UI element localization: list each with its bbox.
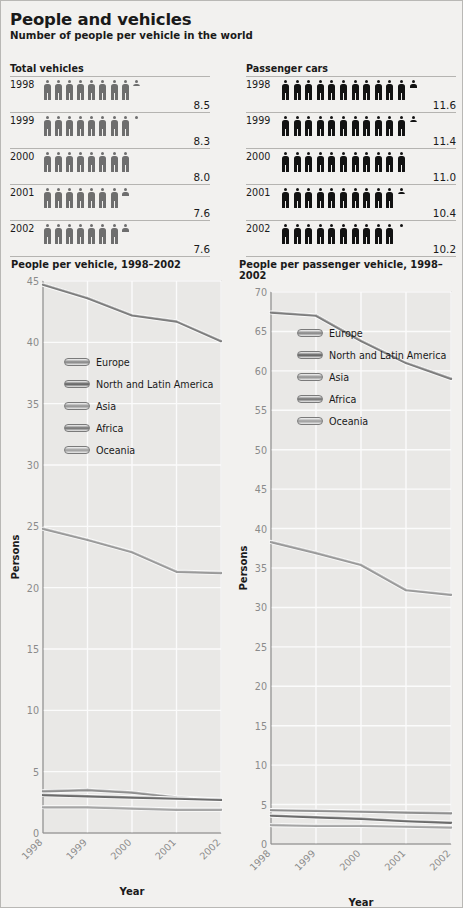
pictogram-row: 20027.6 <box>10 221 210 257</box>
chart-plot-area: 05101520253035404519981999200020012002Ye… <box>7 273 229 901</box>
pictogram-value: 8.5 <box>193 99 210 111</box>
x-axis-title: Year <box>119 886 145 897</box>
pictogram-figures <box>282 152 410 174</box>
y-axis-tick-label: 60 <box>255 366 267 377</box>
legend-item[interactable]: Asia <box>297 366 446 388</box>
person-icon <box>66 80 73 100</box>
person-icon <box>352 152 359 172</box>
person-icon <box>305 188 312 208</box>
pictogram-row: 199911.4 <box>246 113 456 149</box>
person-icon <box>375 152 382 172</box>
pictogram-row: 19998.3 <box>10 113 210 149</box>
person-icon <box>398 224 405 228</box>
person-icon <box>133 116 140 120</box>
person-icon <box>328 188 335 208</box>
person-icon <box>77 224 84 244</box>
person-icon <box>282 116 289 136</box>
person-icon <box>410 80 417 88</box>
legend-item[interactable]: Oceania <box>297 410 446 432</box>
person-icon <box>352 188 359 208</box>
x-axis-tick-label: 2001 <box>153 837 178 862</box>
person-icon <box>317 224 324 244</box>
pictogram-row: 19988.5 <box>10 77 210 113</box>
person-icon <box>44 224 51 244</box>
x-axis-tick-label: 1999 <box>292 848 317 873</box>
person-icon <box>66 188 73 208</box>
pictogram-year-label: 2002 <box>10 223 34 234</box>
pictogram-value: 10.2 <box>433 243 456 255</box>
legend-label: Europe <box>96 357 130 368</box>
legend-item[interactable]: Africa <box>64 417 213 439</box>
pictogram-rows: 199811.6199911.4200011.0200110.4200210.2 <box>246 76 456 257</box>
person-icon <box>294 80 301 100</box>
legend-item[interactable]: Europe <box>64 351 213 373</box>
person-icon <box>44 80 51 100</box>
legend-label: North and Latin America <box>329 350 446 361</box>
person-icon <box>282 188 289 208</box>
person-icon <box>340 80 347 100</box>
legend-swatch-icon <box>64 380 90 388</box>
legend-swatch-icon <box>64 424 90 432</box>
person-icon <box>122 116 129 136</box>
legend-item[interactable]: Africa <box>297 388 446 410</box>
y-axis-tick-label: 55 <box>255 405 267 416</box>
person-icon <box>55 80 62 100</box>
pictogram-row: 200210.2 <box>246 221 456 257</box>
person-icon <box>282 152 289 172</box>
pictogram-value: 8.3 <box>193 135 210 147</box>
person-icon <box>66 224 73 244</box>
pictogram-year-label: 1998 <box>246 79 270 90</box>
pictogram-value: 7.6 <box>193 243 210 255</box>
person-icon <box>352 116 359 136</box>
legend-item[interactable]: Asia <box>64 395 213 417</box>
chart-people-per-vehicle: People per vehicle, 1998–2002 0510152025… <box>7 259 229 901</box>
person-icon <box>386 116 393 136</box>
pictogram-row: 199811.6 <box>246 77 456 113</box>
pictogram-figures <box>44 116 144 138</box>
person-icon <box>375 116 382 136</box>
y-axis-tick-label: 5 <box>33 767 39 778</box>
y-axis-tick-label: 45 <box>27 276 39 287</box>
person-icon <box>328 152 335 172</box>
y-axis-tick-label: 25 <box>255 642 267 653</box>
y-axis-tick-label: 15 <box>27 644 39 655</box>
person-icon <box>352 224 359 244</box>
legend-label: Asia <box>329 372 349 383</box>
pictogram-row: 20017.6 <box>10 185 210 221</box>
person-icon <box>44 188 51 208</box>
legend-item[interactable]: North and Latin America <box>64 373 213 395</box>
y-axis-tick-label: 15 <box>255 721 267 732</box>
legend-item[interactable]: Europe <box>297 322 446 344</box>
legend-label: Europe <box>329 328 363 339</box>
pictogram-year-label: 1999 <box>246 115 270 126</box>
y-axis-tick-label: 25 <box>27 521 39 532</box>
legend-swatch-icon <box>64 358 90 366</box>
legend-swatch-icon <box>297 373 323 381</box>
page-subtitle: Number of people per vehicle in the worl… <box>10 30 463 41</box>
legend-item[interactable]: North and Latin America <box>297 344 446 366</box>
infographic-page: People and vehicles Number of people per… <box>0 0 463 908</box>
y-axis-tick-label: 10 <box>27 705 39 716</box>
person-icon <box>122 152 129 172</box>
person-icon <box>305 116 312 136</box>
person-icon <box>375 188 382 208</box>
person-icon <box>88 152 95 172</box>
person-icon <box>44 152 51 172</box>
y-axis-tick-label: 45 <box>255 484 267 495</box>
pictogram-year-label: 1998 <box>10 79 34 90</box>
pictogram-year-label: 2000 <box>10 151 34 162</box>
pictogram-year-label: 2002 <box>246 223 270 234</box>
legend-item[interactable]: Oceania <box>64 439 213 461</box>
pictogram-figures <box>44 152 133 174</box>
pictogram-year-label: 2001 <box>246 187 270 198</box>
person-icon <box>77 188 84 208</box>
pictogram-heading: Passenger cars <box>246 63 456 76</box>
chart-plot-area: 0510152025303540455055606570199819992000… <box>235 284 459 908</box>
person-icon <box>77 80 84 100</box>
legend-swatch-icon <box>297 395 323 403</box>
person-icon <box>398 152 405 172</box>
legend-label: North and Latin America <box>96 379 213 390</box>
pictogram-value: 10.4 <box>433 207 456 219</box>
pictogram-year-label: 2001 <box>10 187 34 198</box>
person-icon <box>386 224 393 244</box>
